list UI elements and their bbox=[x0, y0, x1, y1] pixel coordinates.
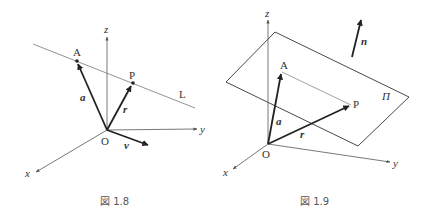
O-label: O bbox=[101, 135, 109, 147]
y-label: y bbox=[392, 157, 398, 169]
A-label: A bbox=[280, 59, 288, 71]
y-axis bbox=[268, 144, 390, 162]
y-label: y bbox=[199, 123, 205, 135]
r-label: r bbox=[300, 128, 305, 140]
a-label: a bbox=[276, 115, 282, 127]
point-A bbox=[75, 59, 79, 63]
caption-1-8: 図 1.8 bbox=[100, 196, 129, 207]
vector-r bbox=[107, 86, 131, 130]
vector-a bbox=[268, 74, 281, 144]
segment-AP bbox=[282, 72, 351, 105]
line-L bbox=[33, 44, 195, 108]
diagram-canvas: z y x O A P L a r v 図 1.8 z y x O A P Π … bbox=[0, 0, 428, 215]
normal-vector-n bbox=[352, 20, 361, 57]
z-label: z bbox=[264, 7, 270, 19]
x-label: x bbox=[222, 166, 228, 178]
figure-1-8: z y x O A P L a r v 図 1.8 bbox=[24, 23, 205, 207]
a-label: a bbox=[80, 91, 86, 103]
figure-1-9: z y x O A P Π n a r 図 1.9 bbox=[222, 7, 409, 207]
P-label: P bbox=[353, 98, 359, 110]
r-label: r bbox=[123, 103, 128, 115]
figure-page: z y x O A P L a r v 図 1.8 z y x O A P Π … bbox=[0, 0, 428, 215]
P-label: P bbox=[129, 69, 135, 81]
O-label: O bbox=[262, 148, 270, 160]
point-P bbox=[131, 81, 135, 85]
A-label: A bbox=[73, 46, 81, 58]
caption-1-9: 図 1.9 bbox=[300, 196, 329, 207]
L-label: L bbox=[179, 88, 186, 100]
x-label: x bbox=[24, 167, 30, 179]
Pi-label: Π bbox=[381, 90, 391, 102]
v-label: v bbox=[124, 139, 129, 151]
y-axis bbox=[107, 129, 197, 130]
n-label: n bbox=[361, 35, 367, 47]
x-axis bbox=[36, 130, 107, 172]
z-label: z bbox=[103, 23, 109, 35]
